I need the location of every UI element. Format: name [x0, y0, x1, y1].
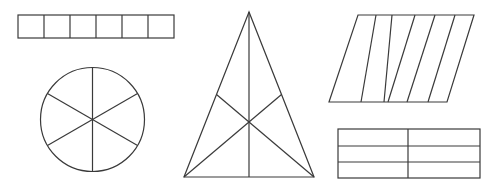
diagram-canvas: [0, 0, 491, 185]
triangle-six-parts: [184, 12, 314, 177]
strip-six-parts: [18, 15, 174, 38]
grid-outline: [338, 129, 480, 178]
parallelogram-six-parts: [329, 15, 474, 102]
grid-dividers: [338, 129, 480, 178]
circle-spoke-line: [47, 120, 92, 146]
circle-six-parts: [41, 68, 145, 172]
parallelogram-divider-line: [384, 15, 392, 102]
parallelogram-dividers: [361, 15, 455, 102]
parallelogram-divider-line: [361, 15, 376, 102]
grid-rectangle-six-parts: [338, 129, 480, 178]
shapes-svg: [0, 0, 491, 185]
circle-spoke-line: [93, 94, 138, 120]
circle-spoke-line: [47, 94, 92, 120]
triangle-medians: [184, 12, 314, 177]
triangle-median-line: [184, 95, 282, 178]
circle-spokes: [47, 68, 137, 172]
circle-spoke-line: [93, 120, 138, 146]
triangle-median-line: [217, 95, 315, 178]
strip-dividers: [44, 15, 148, 38]
